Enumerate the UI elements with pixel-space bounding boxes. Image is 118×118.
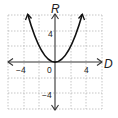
- x-axis-label: D: [104, 57, 113, 71]
- y-tick-neg4: −4: [42, 90, 52, 100]
- x-tick-pos4: 4: [84, 65, 89, 75]
- y-tick-pos4: 4: [48, 29, 53, 39]
- x-tick-neg4: −4: [16, 65, 26, 75]
- y-axis-label: R: [51, 2, 60, 16]
- origin-label: 0: [47, 65, 52, 75]
- graph: R D −4 0 4 4 −4: [0, 0, 118, 118]
